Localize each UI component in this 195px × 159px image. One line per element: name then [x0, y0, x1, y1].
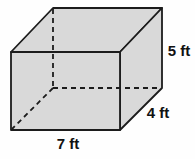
- width-dimension-label: 7 ft: [57, 135, 80, 152]
- prism-figure: 5 ft 4 ft 7 ft: [0, 0, 195, 159]
- prism-front-face: [11, 52, 120, 130]
- depth-dimension-label: 4 ft: [147, 104, 170, 121]
- height-dimension-label: 5 ft: [168, 42, 191, 59]
- prism-drawing: 5 ft 4 ft 7 ft: [0, 0, 195, 159]
